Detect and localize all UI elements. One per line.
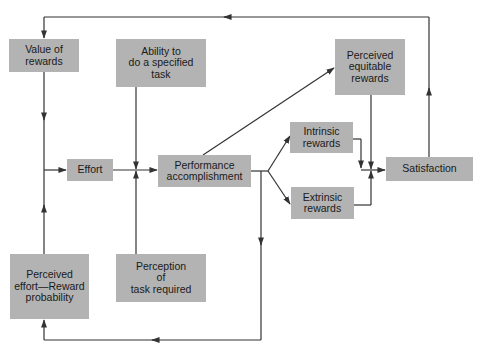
node-value-of-rewards: Value of rewards (9, 39, 79, 72)
diagram-canvas: Value of rewards Ability to do a specifi… (0, 0, 483, 350)
node-satisfaction: Satisfaction (386, 157, 473, 181)
edge-extrinsic-to-satisfaction (354, 171, 371, 205)
edge-intrinsic-to-satisfaction (353, 139, 385, 170)
node-ability: Ability to do a specified task (116, 39, 206, 87)
node-perceived-effort-reward-probability: Perceived effort—Reward probability (10, 254, 89, 319)
node-perception-of-task-required: Perception of task required (116, 254, 206, 302)
node-perceived-equitable-rewards: Perceived equitable rewards (335, 39, 405, 95)
node-intrinsic-rewards: Intrinsic rewards (290, 122, 353, 153)
node-performance-accomplishment: Performance accomplishment (158, 155, 251, 187)
node-extrinsic-rewards: Extrinsic rewards (291, 187, 354, 219)
node-effort: Effort (67, 159, 113, 181)
edge-performance-to-rewards (251, 136, 290, 204)
edge-perceived-effort-to-effort (44, 170, 66, 254)
